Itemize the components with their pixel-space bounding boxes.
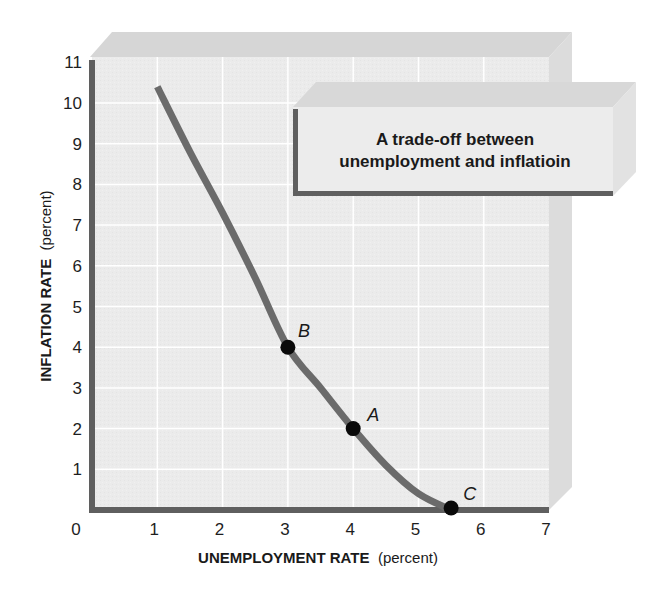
title-box-left-border	[293, 109, 298, 196]
x-tick-label: 6	[476, 520, 485, 539]
y-tick-label: 4	[73, 338, 82, 357]
y-tick-label: 8	[73, 175, 82, 194]
y-tick-label: 7	[73, 216, 82, 235]
x-axis-line	[89, 507, 549, 513]
y-tick-label: 5	[73, 298, 82, 317]
y-tick-label: 1	[73, 460, 82, 479]
y-tick-label: 3	[73, 379, 82, 398]
point-a-label: A	[366, 405, 379, 425]
x-tick-label: 7	[541, 520, 550, 539]
x-tick-labels: 01234567	[71, 520, 551, 539]
title-line-1: A trade-off between	[376, 130, 534, 149]
y-axis-title-bold: INFLATION RATE	[37, 259, 54, 382]
y-tick-label: 2	[73, 420, 82, 439]
phillips-curve-chart: A trade-off between unemployment and inf…	[0, 0, 667, 594]
x-tick-label: 3	[280, 520, 289, 539]
y-tick-label: 10	[63, 94, 82, 113]
y-axis-line	[89, 60, 95, 513]
y-tick-label: 9	[73, 135, 82, 154]
x-axis-title-bold: UNEMPLOYMENT RATE	[198, 549, 369, 566]
x-axis-title-unit: (percent)	[378, 549, 438, 566]
x-tick-label: 0	[71, 520, 80, 539]
plot-top-face	[90, 32, 572, 57]
point-c-label: C	[463, 484, 477, 504]
y-tick-label: 6	[73, 257, 82, 276]
title-box: A trade-off between unemployment and inf…	[293, 82, 636, 196]
y-axis-title-unit: (percent)	[37, 190, 54, 250]
x-tick-label: 1	[150, 520, 159, 539]
y-tick-labels: 1234567891011	[63, 53, 82, 479]
y-axis-title: INFLATION RATE (percent)	[37, 190, 54, 381]
point-b-marker	[280, 340, 295, 355]
x-tick-label: 5	[411, 520, 420, 539]
title-box-bottom-border	[293, 191, 613, 196]
x-tick-label: 2	[215, 520, 224, 539]
title-line-2: unemployment and inflatioin	[339, 152, 570, 171]
point-a-marker	[346, 421, 361, 436]
point-b-label: B	[298, 321, 310, 341]
x-axis-title: UNEMPLOYMENT RATE (percent)	[198, 549, 438, 566]
x-tick-label: 4	[345, 520, 354, 539]
title-box-top-face	[293, 82, 636, 107]
point-c-marker	[444, 501, 459, 516]
y-tick-label: 11	[64, 53, 82, 72]
